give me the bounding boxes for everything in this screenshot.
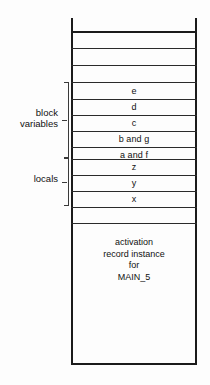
- brace-spine: [68, 158, 69, 206]
- brace-spine: [68, 82, 69, 158]
- brace-block-variables: [62, 82, 69, 158]
- cell-e: e: [73, 83, 195, 99]
- brace-tick-top: [64, 82, 69, 83]
- cell-empty-1: [73, 18, 195, 31]
- brace-pointer: [62, 182, 67, 183]
- group-label-block-variables-line-2: variables: [0, 118, 58, 129]
- activation-record-line-1: activation: [103, 237, 165, 249]
- stack-frame-bottom-edge: [71, 363, 197, 365]
- cell-b-and-g: b and g: [73, 132, 195, 147]
- cell-x: x: [73, 192, 195, 207]
- cell-y: y: [73, 176, 195, 191]
- cell-empty-2: [73, 32, 195, 48]
- brace-locals: [62, 158, 69, 206]
- activation-record-region: activation record instance for MAIN_5: [73, 224, 195, 363]
- stack-diagram: e d c b and g a and f z y x activation r…: [71, 18, 197, 365]
- cell-c: c: [73, 116, 195, 131]
- brace-tick-top: [64, 158, 69, 159]
- cell-z: z: [73, 160, 195, 175]
- cell-empty-3: [73, 49, 195, 65]
- brace-tick-bottom: [64, 205, 69, 206]
- activation-record-line-3: for: [103, 260, 165, 272]
- activation-record-text: activation record instance for MAIN_5: [103, 237, 165, 283]
- group-label-block-variables: block variables: [0, 107, 58, 130]
- brace-pointer: [62, 120, 67, 121]
- activation-record-line-4: MAIN_5: [103, 272, 165, 284]
- cell-separator-12: [71, 207, 197, 208]
- group-label-block-variables-line-1: block: [0, 107, 58, 118]
- activation-record-line-2: record instance: [103, 249, 165, 261]
- cell-d: d: [73, 100, 195, 115]
- group-label-locals: locals: [0, 173, 58, 184]
- group-label-locals-line-1: locals: [0, 173, 58, 184]
- cell-empty-4: [73, 66, 195, 82]
